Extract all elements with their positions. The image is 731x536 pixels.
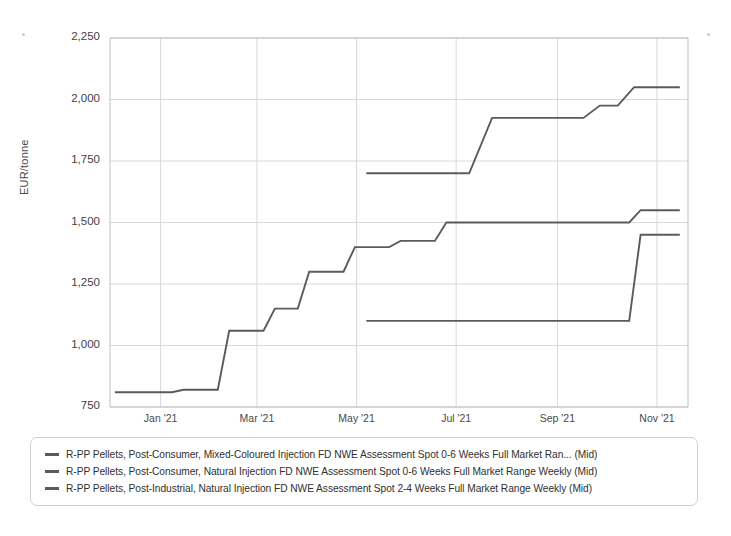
series-line-3[interactable] [366,235,680,321]
legend-line-icon [45,470,59,473]
series-line-2[interactable] [115,210,680,392]
legend-item-label: R-PP Pellets, Post-Consumer, Mixed-Colou… [66,449,597,460]
legend-item-label: R-PP Pellets, Post-Consumer, Natural Inj… [66,466,597,477]
series-line-1[interactable] [366,87,680,173]
legend-line-icon [45,453,59,456]
legend-item-label: R-PP Pellets, Post-Industrial, Natural I… [66,483,592,494]
legend-line-icon [45,487,59,490]
legend-item[interactable]: R-PP Pellets, Post-Industrial, Natural I… [45,480,687,497]
legend-item[interactable]: R-PP Pellets, Post-Consumer, Natural Inj… [45,463,687,480]
legend-item[interactable]: R-PP Pellets, Post-Consumer, Mixed-Colou… [45,446,687,463]
price-chart: EUR/tonne 2,2502,0001,7501,5001,2501,000… [0,0,731,536]
chart-legend: R-PP Pellets, Post-Consumer, Mixed-Colou… [30,437,698,506]
